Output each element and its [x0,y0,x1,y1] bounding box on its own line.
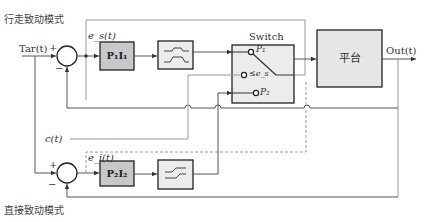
switch-p1-label: P₁ [256,45,266,54]
tar-branch-line [35,56,56,173]
disturbance-line [70,75,240,139]
switch-contact-p1 [248,49,253,54]
p2-input-line [193,93,232,174]
upper-error-label: e_s(t) [88,31,116,41]
controller1-label: P₁I₁ [100,51,134,61]
upper-minus-sign: − [55,64,63,74]
platform-label: 平台 [317,53,382,64]
upper-mode-label: 行走致动模式 [4,15,64,25]
output-label: Out(t) [386,46,416,56]
saturation1-block [158,41,193,69]
switch-title: Switch [249,32,284,42]
lower-minus-sign: − [48,180,56,190]
lower-mode-label: 直接致动模式 [4,206,64,216]
switch-contact-p2 [253,90,258,95]
input-label: Tar(t) [19,44,47,54]
saturation2-block [158,160,193,189]
controller2-label: P₂I₂ [100,169,134,179]
switch-p2-label: P₂ [260,88,270,97]
lower-plus-sign: + [49,160,57,170]
control-block-diagram [0,0,430,222]
disturbance-label: c(t) [45,134,62,144]
branch-node [84,54,88,58]
switch-contact-cond [241,72,246,77]
lower-error-label: e_i(t) [88,153,114,163]
lower-summing-junction [57,163,77,183]
switch-cond-label: ≤e_s [249,70,269,78]
upper-plus-sign: + [49,43,57,53]
